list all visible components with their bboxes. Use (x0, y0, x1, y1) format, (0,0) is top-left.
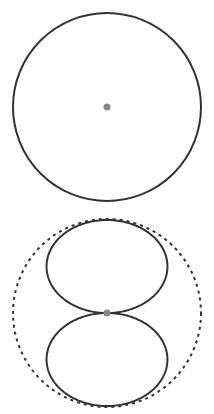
bidir-mic-position-dot (104, 310, 111, 317)
bidirectional-pattern (13, 219, 201, 407)
omni-mic-position-dot (104, 104, 111, 111)
polar-patterns-diagram (0, 0, 214, 414)
figure8-front-lobe (47, 220, 168, 313)
omnidirectional-pattern (13, 13, 201, 201)
figure8-rear-lobe (47, 313, 168, 406)
